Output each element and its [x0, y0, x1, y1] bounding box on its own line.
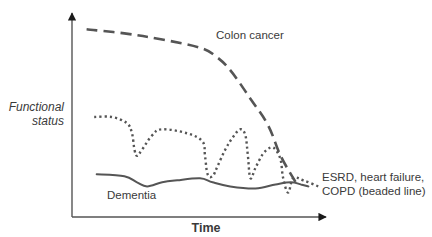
- series-line-dementia: [97, 174, 309, 188]
- x-axis-label: Time: [192, 221, 221, 235]
- series-line-colon-cancer: [87, 29, 296, 182]
- label-colon-cancer: Colon cancer: [216, 29, 284, 41]
- label-esrd-line2: COPD (beaded line): [322, 185, 426, 197]
- series-line-esrd-heart-failure-copd-beaded-line: [94, 117, 318, 193]
- y-axis-label-line1: Functional: [9, 100, 65, 114]
- label-esrd-line1: ESRD, heart failure,: [322, 171, 424, 183]
- y-axis-label-line2: status: [32, 114, 64, 128]
- label-dementia: Dementia: [107, 189, 157, 201]
- trajectory-diagram: Functional status Time Colon cancer Deme…: [0, 0, 432, 237]
